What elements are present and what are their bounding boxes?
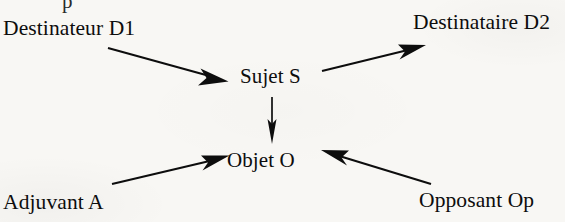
arrow-sujet-to-destinataire [322, 45, 426, 72]
node-label-objet: Objet O [227, 150, 295, 171]
arrow-opposant-to-objet [321, 150, 431, 184]
node-label-opposant: Opposant Op [419, 190, 534, 212]
arrow-adjuvant-to-objet [112, 156, 230, 185]
node-label-sujet: Sujet S [240, 66, 301, 87]
actantial-model-diagram: p Destinateur D1 Destinataire D2 [0, 0, 565, 222]
node-label-adjuvant: Adjuvant A [3, 192, 104, 214]
node-label-destinataire: Destinataire D2 [413, 12, 550, 34]
node-label-destinateur: Destinateur D1 [3, 18, 135, 40]
arrow-sujet-to-objet [268, 97, 277, 144]
arrow-destinateur-to-sujet [108, 48, 229, 86]
